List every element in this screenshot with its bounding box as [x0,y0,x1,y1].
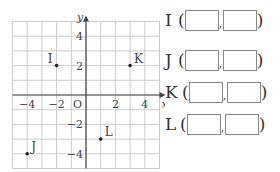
answer-row-k: K( , ) [165,80,267,104]
answer-k-y-input[interactable] [227,82,261,103]
svg-text:4: 4 [141,98,148,111]
svg-text:L: L [105,125,113,139]
svg-text:K: K [134,52,144,66]
svg-text:−2: −2 [48,98,64,111]
svg-text:I: I [48,52,53,66]
answer-j-y-input[interactable] [223,50,257,71]
answer-l-x-input[interactable] [187,114,221,135]
answer-row-i: I( , ) [165,8,263,32]
answer-j-x-input[interactable] [185,50,219,71]
svg-text:y: y [76,11,84,24]
answer-i-x-input[interactable] [185,10,219,31]
answer-row-j: J( , ) [165,48,263,72]
svg-text:O: O [73,98,82,111]
coordinate-plane: −4−22442−2−4OxyIJKL [0,0,165,172]
svg-text:−4: −4 [19,98,35,111]
answer-l-y-input[interactable] [225,114,259,135]
svg-text:4: 4 [76,30,83,43]
svg-text:−2: −2 [67,118,83,131]
answer-k-x-input[interactable] [189,82,223,103]
svg-text:−4: −4 [67,148,83,161]
svg-text:2: 2 [76,60,83,73]
svg-text:J: J [29,140,36,154]
svg-text:2: 2 [112,98,119,111]
answer-i-y-input[interactable] [223,10,257,31]
answer-row-l: L( , ) [165,112,265,136]
